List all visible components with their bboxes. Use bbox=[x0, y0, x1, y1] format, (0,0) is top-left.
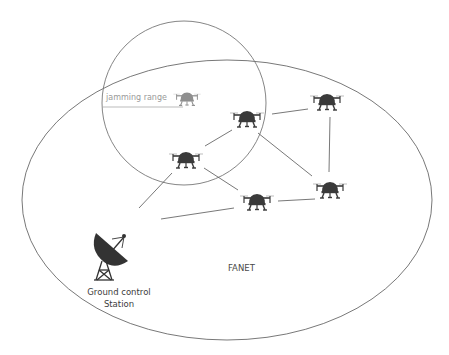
link-d2-gcs bbox=[139, 173, 172, 208]
link-d1-d2 bbox=[205, 130, 232, 146]
link-d1-d3 bbox=[272, 109, 308, 114]
link-gcs-d4 bbox=[161, 208, 234, 219]
drone-icon-jammer bbox=[173, 93, 200, 106]
ground-control-station-label: Ground control Station bbox=[80, 286, 158, 310]
link-d2-d4 bbox=[204, 168, 238, 190]
gcs-label-line1: Ground control bbox=[80, 286, 158, 298]
drone-icon bbox=[310, 94, 344, 110]
network-links bbox=[139, 109, 330, 219]
jamming-range-label: jamming range bbox=[106, 94, 167, 102]
link-d3-d5 bbox=[329, 117, 330, 172]
fanet-diagram: jamming range FANET Ground control Stati… bbox=[0, 0, 449, 355]
gcs-label-line2: Station bbox=[80, 298, 158, 310]
link-d4-d5 bbox=[278, 199, 315, 201]
drone-icon bbox=[169, 152, 203, 168]
fanet-label: FANET bbox=[228, 264, 255, 273]
drone-icon bbox=[313, 182, 347, 198]
drone-icon bbox=[230, 111, 264, 127]
satellite-dish-icon bbox=[94, 233, 128, 280]
link-d1-d5 bbox=[258, 133, 312, 176]
drone-icon bbox=[240, 194, 274, 210]
